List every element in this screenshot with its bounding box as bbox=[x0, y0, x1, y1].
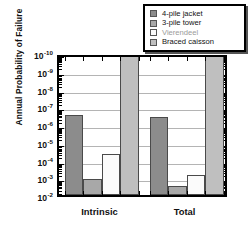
y-axis-minor-tick bbox=[59, 59, 62, 60]
y-axis-minor-tick bbox=[59, 133, 62, 134]
y-axis-minor-tick bbox=[59, 94, 62, 95]
bar-4-pile-jacket-total bbox=[150, 117, 169, 195]
y-axis-minor-tick bbox=[59, 62, 62, 63]
legend-item-braced-caisson: Braced caisson bbox=[150, 38, 240, 48]
y-axis-minor-tick bbox=[59, 167, 62, 168]
y-axis-minor-tick bbox=[59, 112, 62, 113]
y-axis-minor-tick bbox=[59, 182, 62, 183]
legend-item-4-pile-jacket: 4-pile jacket bbox=[150, 9, 240, 19]
y-axis-minor-tick bbox=[59, 100, 62, 101]
y-axis-minor-tick bbox=[59, 140, 62, 141]
gridline bbox=[59, 110, 225, 111]
y-axis-minor-tick bbox=[59, 183, 62, 184]
y-axis-minor-tick bbox=[59, 171, 62, 172]
y-axis-minor-tick bbox=[59, 84, 62, 85]
y-axis-minor-tick bbox=[59, 95, 62, 96]
y-axis-minor-tick bbox=[59, 165, 62, 166]
y-axis-minor-tick bbox=[59, 151, 62, 152]
y-axis-tick-label: 10-4 bbox=[38, 156, 53, 166]
plot-area bbox=[57, 55, 227, 197]
y-axis-minor-tick bbox=[59, 129, 62, 130]
y-axis-minor-tick bbox=[59, 153, 62, 154]
y-axis-minor-tick bbox=[59, 93, 62, 94]
y-axis-minor-tick bbox=[59, 113, 62, 114]
y-tick-exponent: -2 bbox=[47, 191, 53, 198]
y-tick-mantissa: 10 bbox=[38, 139, 48, 149]
y-tick-exponent: -3 bbox=[47, 173, 53, 180]
y-axis-minor-tick bbox=[59, 176, 62, 177]
y-tick-exponent: -7 bbox=[47, 102, 53, 109]
y-axis-tick-label: 10-9 bbox=[38, 68, 53, 78]
y-tick-exponent: -4 bbox=[47, 155, 53, 162]
y-axis-minor-tick bbox=[59, 150, 62, 151]
y-axis-minor-tick bbox=[59, 191, 62, 192]
y-axis-minor-tick bbox=[59, 185, 62, 186]
x-axis-tick-top bbox=[224, 57, 225, 61]
legend-item-vierendeel: Vierendeel bbox=[150, 28, 240, 38]
y-axis-minor-tick bbox=[59, 58, 62, 59]
legend-label: 4-pile jacket bbox=[162, 10, 203, 18]
x-axis-tick bbox=[187, 191, 188, 195]
y-axis-tick-label: 10-3 bbox=[38, 174, 53, 184]
y-tick-mantissa: 10 bbox=[38, 122, 48, 132]
y-tick-exponent: -5 bbox=[47, 138, 53, 145]
x-axis-tick-top bbox=[120, 57, 121, 61]
y-tick-exponent: -9 bbox=[47, 67, 53, 74]
y-axis-minor-tick bbox=[59, 64, 62, 65]
y-axis-tick-label: 10-10 bbox=[34, 50, 53, 60]
bar-braced-caisson-total bbox=[205, 55, 224, 195]
x-axis-tick-top bbox=[205, 57, 206, 61]
y-axis-minor-tick bbox=[59, 76, 62, 77]
y-axis-minor-tick bbox=[59, 116, 62, 117]
x-axis-tick-top bbox=[187, 57, 188, 61]
y-axis-minor-tick bbox=[59, 79, 62, 80]
y-axis-tick-label: 10-5 bbox=[38, 139, 53, 149]
y-axis-minor-tick bbox=[59, 158, 62, 159]
bar-3-pile-tower-intrinsic bbox=[83, 179, 102, 195]
legend-swatch-icon bbox=[150, 10, 157, 17]
y-axis-minor-tick bbox=[59, 120, 62, 121]
y-tick-mantissa: 10 bbox=[38, 68, 48, 78]
y-axis-minor-tick bbox=[59, 131, 62, 132]
y-axis-minor-tick bbox=[59, 187, 62, 188]
y-axis-minor-tick bbox=[59, 130, 62, 131]
x-axis-tick bbox=[224, 191, 225, 195]
y-axis-minor-tick bbox=[59, 169, 62, 170]
legend-label: Braced caisson bbox=[162, 38, 214, 46]
y-tick-exponent: -8 bbox=[47, 84, 53, 91]
y-axis-minor-tick bbox=[59, 147, 62, 148]
y-axis-minor-tick bbox=[59, 149, 62, 150]
legend-item-3-pile-tower: 3-pile tower bbox=[150, 19, 240, 29]
y-axis-minor-tick bbox=[59, 123, 62, 124]
y-axis-minor-tick bbox=[59, 114, 62, 115]
y-axis-minor-tick bbox=[59, 155, 62, 156]
y-axis-minor-tick bbox=[59, 173, 62, 174]
x-axis-tick-top bbox=[168, 57, 169, 61]
figure: Annual Probability of Failure 10-1010-91… bbox=[0, 0, 250, 228]
x-axis-tick bbox=[65, 191, 66, 195]
gridline bbox=[59, 146, 225, 147]
y-tick-mantissa: 10 bbox=[38, 86, 48, 96]
chart-legend: 4-pile jacket3-pile towerVierendeelBrace… bbox=[143, 4, 246, 52]
gridline bbox=[59, 164, 225, 165]
y-axis-minor-tick bbox=[59, 147, 62, 148]
bar-vierendeel-total bbox=[187, 175, 206, 196]
legend-swatch-icon bbox=[150, 29, 157, 36]
y-axis-minor-tick bbox=[59, 66, 62, 67]
y-tick-mantissa: 10 bbox=[38, 104, 48, 114]
x-axis-tick-top bbox=[150, 57, 151, 61]
y-axis-minor-tick bbox=[59, 137, 62, 138]
bar-vierendeel-intrinsic bbox=[102, 154, 121, 195]
y-axis-minor-tick bbox=[59, 82, 62, 83]
x-axis-label-intrinsic: Intrinsic bbox=[81, 206, 117, 217]
y-axis-minor-tick bbox=[59, 76, 62, 77]
legend-swatch-icon bbox=[150, 39, 157, 46]
y-axis-minor-tick bbox=[59, 102, 62, 103]
legend-label: Vierendeel bbox=[162, 29, 198, 37]
x-axis-label-total: Total bbox=[174, 206, 196, 217]
bar-4-pile-jacket-intrinsic bbox=[65, 115, 84, 195]
y-axis-minor-tick bbox=[59, 164, 62, 165]
y-tick-exponent: -6 bbox=[47, 120, 53, 127]
y-axis-minor-tick bbox=[59, 96, 62, 97]
y-axis-minor-tick bbox=[59, 61, 62, 62]
